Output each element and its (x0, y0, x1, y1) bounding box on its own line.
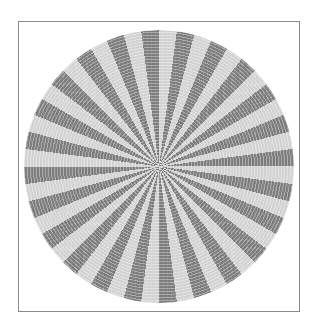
figure-frame (18, 21, 300, 312)
radial-stripe-wheel (24, 30, 294, 303)
fine-line-texture (24, 30, 294, 303)
